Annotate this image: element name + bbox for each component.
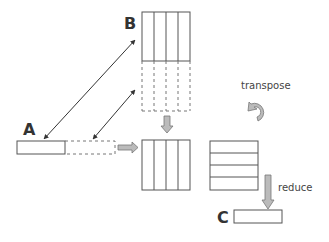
transpose-curved-arrow-icon: [248, 102, 264, 121]
vector-a: [17, 141, 65, 154]
double-arrow-solid-link: [44, 40, 135, 139]
down-block-arrow-icon: [161, 116, 173, 133]
matrix-b: [142, 12, 190, 61]
vector-c: [234, 210, 282, 223]
reduce-down-arrow-icon: [262, 175, 274, 209]
diagram-canvas: [0, 0, 329, 242]
transpose-label: transpose: [241, 81, 291, 91]
reduce-label: reduce: [278, 183, 312, 193]
right-block-arrow-icon: [118, 142, 138, 153]
transposed-matrix: [210, 141, 258, 190]
double-arrow-dashed-link: [93, 90, 135, 139]
label-a: A: [23, 122, 35, 138]
product-matrix: [142, 140, 190, 190]
label-c: C: [217, 210, 229, 226]
label-b: B: [124, 16, 136, 32]
vector-a-broadcast-extension: [65, 141, 115, 154]
matrix-b-broadcast-extension: [142, 61, 190, 111]
